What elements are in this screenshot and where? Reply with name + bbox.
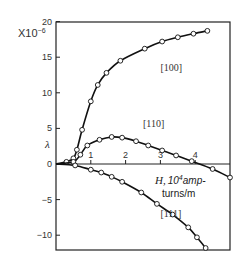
data-point-marker	[134, 139, 139, 144]
data-point-marker	[142, 46, 147, 51]
data-point-marker	[104, 70, 109, 75]
data-point-marker	[120, 179, 125, 184]
y-tick-label: 5	[47, 123, 52, 133]
data-point-marker	[146, 143, 151, 148]
y-axis-label: λ	[44, 138, 50, 150]
data-point-marker	[174, 153, 179, 158]
data-point-marker	[74, 147, 79, 152]
data-point-marker	[160, 148, 165, 153]
data-point-marker	[99, 170, 104, 175]
data-point-marker	[155, 201, 160, 206]
data-point-marker	[203, 246, 208, 251]
y-tick-label: −10	[37, 230, 52, 240]
y-tick-label: 0	[47, 159, 52, 169]
data-point-marker	[228, 175, 233, 180]
plot-frame	[56, 22, 230, 250]
y-tick-label: 15	[42, 52, 52, 62]
data-point-marker	[189, 159, 194, 164]
data-point-marker	[195, 235, 200, 240]
data-point-marker	[109, 174, 114, 179]
data-point-marker	[175, 35, 180, 40]
data-point-marker	[210, 167, 215, 172]
data-point-marker	[78, 152, 83, 157]
data-point-marker	[139, 190, 144, 195]
series-label: [110]	[143, 118, 164, 129]
series-layer	[56, 28, 232, 250]
series-label: [111]	[160, 208, 181, 219]
x-axis-title: H,104amp- turns/m	[154, 174, 206, 199]
data-point-marker	[97, 137, 102, 142]
data-point-marker	[120, 135, 125, 140]
y-multiplier-label: X10−6	[18, 27, 46, 39]
svg-text:turns/m: turns/m	[162, 188, 195, 199]
y-tick-label: −5	[42, 195, 52, 205]
data-point-marker	[205, 28, 210, 33]
series-110	[56, 135, 232, 180]
data-point-marker	[109, 135, 114, 140]
series-label: [100]	[160, 62, 182, 73]
series-line	[56, 137, 230, 178]
data-point-marker	[191, 31, 196, 36]
x-tick-label: 1	[88, 150, 93, 160]
data-point-marker	[95, 83, 100, 88]
data-point-marker	[160, 39, 165, 44]
y-tick-label: 10	[42, 88, 52, 98]
data-point-marker	[88, 167, 93, 172]
data-point-marker	[73, 163, 78, 168]
data-point-marker	[85, 143, 90, 148]
data-point-marker	[186, 225, 191, 230]
data-point-marker	[118, 58, 123, 63]
series-line	[56, 31, 207, 164]
x-tick-label: 2	[123, 150, 128, 160]
x-tick-label: 4	[193, 150, 198, 160]
data-point-marker	[88, 99, 93, 104]
data-point-marker	[80, 127, 85, 132]
y-tick-label: 20	[42, 17, 52, 27]
series-100	[56, 28, 210, 164]
magnetostriction-chart: 20151050−5−10 1234 X10−6 λ H,104amp- tur…	[0, 0, 241, 257]
svg-text:H,104amp-: H,104amp-	[154, 174, 206, 186]
